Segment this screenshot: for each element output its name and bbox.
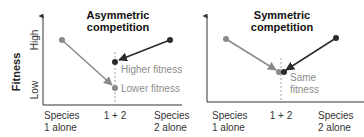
same-fitness-label: Same: [290, 72, 317, 83]
species2-combined-dot: [112, 59, 118, 65]
x-label-species2: Species: [318, 110, 354, 121]
species2-arrow: [119, 40, 170, 60]
y-axis-high-label: High: [29, 30, 40, 51]
x-label-species1: Species: [44, 110, 80, 121]
species1-arrow: [62, 40, 112, 85]
panel-asymmetric: Asymmetric competition Higher fitness Lo…: [43, 9, 190, 133]
y-axis-title: Fitness: [10, 53, 22, 92]
x-label-species1: Species: [212, 110, 248, 121]
panel-title-line2: competition: [87, 21, 150, 33]
lower-fitness-label: Lower fitness: [121, 83, 180, 94]
competition-diagram: Fitness High Low Asymmetric competition …: [0, 0, 364, 137]
species1-combined-dot: [112, 85, 118, 91]
species2-alone-dot: [333, 35, 339, 41]
x-label-species2-line2: 2 alone: [154, 122, 187, 133]
species2-combined-dot: [281, 69, 287, 75]
species1-alone-dot: [223, 36, 229, 42]
x-label-combined: 1 + 2: [270, 110, 293, 121]
panel-title: Asymmetric: [87, 9, 150, 21]
panel-title-line2: competition: [251, 21, 314, 33]
panel-symmetric: Symmetric competition Same fitness Speci…: [207, 9, 364, 133]
x-label-species2-line2: 2 alone: [318, 122, 351, 133]
x-label-combined: 1 + 2: [104, 110, 127, 121]
y-axis-low-label: Low: [29, 80, 40, 99]
higher-fitness-label: Higher fitness: [121, 64, 182, 75]
species1-arrow: [226, 39, 276, 70]
x-label-species1-line2: 1 alone: [44, 122, 77, 133]
species1-alone-dot: [59, 37, 65, 43]
species2-arrow: [286, 38, 336, 70]
x-label-species2: Species: [154, 110, 190, 121]
species2-alone-dot: [167, 37, 173, 43]
panel-title: Symmetric: [254, 9, 310, 21]
x-label-species1-line2: 1 alone: [212, 122, 245, 133]
same-fitness-label-line2: fitness: [290, 84, 319, 95]
